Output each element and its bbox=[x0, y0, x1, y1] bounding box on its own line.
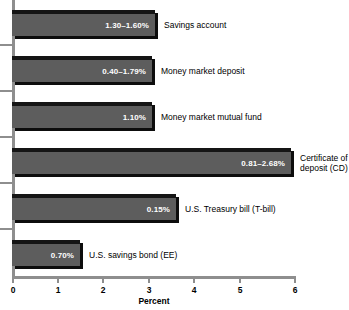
x-axis-tick-label: 2 bbox=[101, 285, 106, 295]
bar-category-label-text: Money market deposit bbox=[161, 66, 245, 76]
x-axis-tick-label: 1 bbox=[56, 285, 61, 295]
bar-category-label-text: Certificate of bbox=[300, 153, 348, 163]
bar-category-label: Certificate of deposit (CD) bbox=[300, 153, 348, 173]
bar-category-label-text: U.S. savings bond (EE) bbox=[89, 250, 177, 260]
bar-category-label-text: U.S. Treasury bill (T-bill) bbox=[185, 204, 276, 214]
bar[interactable]: 1.30–1.60% bbox=[12, 10, 155, 36]
bar-body: 0.40–1.79% bbox=[12, 56, 152, 82]
bar-value-label: 1.10% bbox=[123, 113, 146, 122]
y-axis-line bbox=[12, 0, 15, 276]
x-axis-tick-label: 4 bbox=[192, 285, 197, 295]
bar-value-label: 0.70% bbox=[51, 251, 74, 260]
bar-category-label: Savings account bbox=[164, 20, 226, 30]
x-axis-title: Percent bbox=[138, 296, 169, 306]
bar[interactable]: 0.70% bbox=[12, 240, 80, 266]
plot-area: 1.30–1.60% Savings account 0.40–1.79% Mo… bbox=[0, 0, 349, 276]
bar-value-label: 0.40–1.79% bbox=[102, 67, 146, 76]
y-axis-tick bbox=[0, 90, 12, 92]
bar-category-label: Money market mutual fund bbox=[161, 112, 262, 122]
y-axis-tick bbox=[0, 44, 12, 46]
x-axis-line bbox=[12, 276, 296, 279]
bar[interactable]: 0.15% bbox=[12, 194, 176, 220]
x-axis-tick-label: 3 bbox=[147, 285, 152, 295]
x-axis-tick bbox=[239, 276, 241, 283]
y-axis-tick bbox=[0, 228, 12, 230]
bar[interactable]: 0.40–1.79% bbox=[12, 56, 152, 82]
y-axis-tick bbox=[0, 136, 12, 138]
bar-category-label: Money market deposit bbox=[161, 66, 245, 76]
bar-value-label: 0.15% bbox=[147, 205, 170, 214]
x-axis-tick bbox=[294, 276, 296, 283]
x-axis-tick-label: 5 bbox=[238, 285, 243, 295]
x-axis-tick bbox=[12, 276, 14, 283]
bar-body: 0.81–2.68% bbox=[12, 148, 291, 174]
bar-value-label: 0.81–2.68% bbox=[241, 159, 285, 168]
x-axis-tick bbox=[193, 276, 195, 283]
bar-category-label: U.S. savings bond (EE) bbox=[89, 250, 177, 260]
bar[interactable]: 1.10% bbox=[12, 102, 152, 128]
x-axis-tick bbox=[148, 276, 150, 283]
bar-category-label-text: Money market mutual fund bbox=[161, 112, 262, 122]
y-axis-tick bbox=[0, 182, 12, 184]
x-axis-tick bbox=[102, 276, 104, 283]
bar-body: 0.70% bbox=[12, 240, 80, 266]
x-axis-tick-label: 6 bbox=[293, 285, 298, 295]
bar-category-label-text: Savings account bbox=[164, 20, 226, 30]
bar-chart: 1.30–1.60% Savings account 0.40–1.79% Mo… bbox=[0, 0, 349, 310]
bar-category-label: U.S. Treasury bill (T-bill) bbox=[185, 204, 276, 214]
x-axis-tick-label: 0 bbox=[11, 285, 16, 295]
bar-body: 1.30–1.60% bbox=[12, 10, 155, 36]
bar[interactable]: 0.81–2.68% bbox=[12, 148, 291, 174]
x-axis-tick bbox=[57, 276, 59, 283]
bar-value-label: 1.30–1.60% bbox=[105, 21, 149, 30]
bar-body: 1.10% bbox=[12, 102, 152, 128]
bar-body: 0.15% bbox=[12, 194, 176, 220]
bar-category-label-text-line2: deposit (CD) bbox=[300, 163, 348, 173]
